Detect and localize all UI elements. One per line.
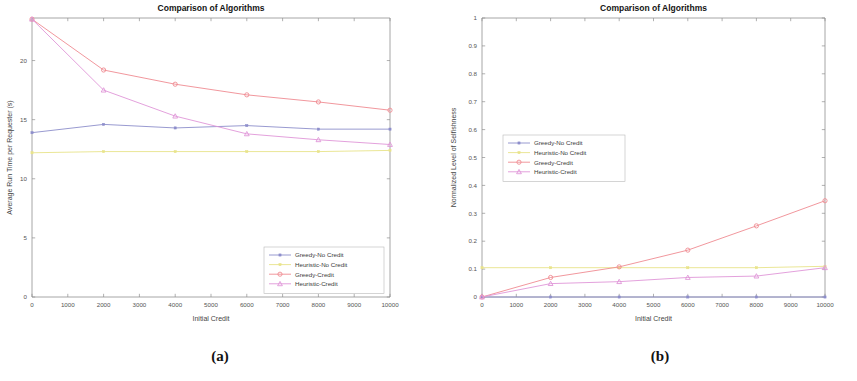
y-tick-label: 0	[474, 293, 478, 300]
series-line	[482, 201, 825, 297]
data-point-marker	[389, 128, 391, 130]
legend-marker	[518, 152, 520, 154]
y-axis-label: Average Run Time per Requester (s)	[6, 100, 14, 214]
figure-container: Comparison of Algorithms0100020003000400…	[0, 0, 857, 381]
data-point-marker	[31, 132, 33, 134]
x-tick-label: 2000	[544, 301, 558, 308]
data-point-marker	[687, 296, 689, 298]
x-tick-label: 5000	[647, 301, 661, 308]
data-point-marker	[103, 150, 105, 152]
x-tick-label: 10000	[816, 301, 834, 308]
legend-entry-label: Heuristic-Credit	[295, 280, 338, 287]
legend-entry-label: Greedy-Credit	[534, 159, 573, 166]
series-line	[482, 266, 825, 267]
y-tick-label: 0.2	[468, 237, 477, 244]
x-tick-label: 4000	[168, 301, 182, 308]
y-tick-label: 10	[20, 175, 27, 182]
series-2	[31, 149, 391, 154]
x-tick-label: 0	[480, 301, 484, 308]
chart-svg-panel-a: Comparison of Algorithms0100020003000400…	[0, 0, 430, 340]
legend-entry-label: Greedy-No Credit	[295, 251, 344, 258]
y-tick-label: 0.5	[468, 154, 477, 161]
chart-panel-a: Comparison of Algorithms0100020003000400…	[0, 0, 430, 340]
y-tick-label: 0.1	[468, 265, 477, 272]
y-tick-label: 0.9	[468, 42, 477, 49]
series-3	[30, 17, 392, 112]
x-tick-label: 9000	[347, 301, 361, 308]
legend-entry-label: Heuristic-Credit	[534, 168, 577, 175]
data-point-marker	[389, 149, 391, 151]
y-tick-label: 0	[24, 293, 28, 300]
y-tick-label: 0.7	[468, 98, 477, 105]
x-tick-label: 1000	[61, 301, 75, 308]
data-point-marker	[618, 296, 620, 298]
data-point-marker	[174, 150, 176, 152]
legend-marker	[279, 254, 281, 256]
x-axis-label: Initial Credit	[635, 315, 672, 322]
x-tick-label: 7000	[276, 301, 290, 308]
data-point-marker	[550, 267, 552, 269]
series-line	[32, 19, 390, 144]
legend-marker	[279, 264, 281, 266]
figure-caption-b: (b)	[600, 348, 720, 365]
data-point-marker	[755, 296, 757, 298]
data-point-marker	[824, 296, 826, 298]
series-line	[32, 19, 390, 110]
chart-title: Comparison of Algorithms	[600, 3, 707, 13]
x-tick-label: 4000	[612, 301, 626, 308]
chart-title: Comparison of Algorithms	[158, 3, 265, 13]
y-tick-label: 0.3	[468, 210, 477, 217]
y-tick-label: 15	[20, 116, 27, 123]
data-point-marker	[550, 296, 552, 298]
y-tick-label: 20	[20, 57, 27, 64]
y-tick-label: 0.6	[468, 126, 477, 133]
x-axis-label: Initial Credit	[193, 315, 230, 322]
y-axis-label: Normalized Level of Selfishness	[450, 107, 457, 207]
data-point-marker	[174, 127, 176, 129]
data-point-marker	[755, 267, 757, 269]
data-point-marker	[246, 150, 248, 152]
x-tick-label: 8000	[750, 301, 764, 308]
chart-legend: Greedy-No CreditHeuristic-No CreditGreed…	[503, 135, 625, 181]
x-tick-label: 0	[30, 301, 34, 308]
chart-panel-b: Comparison of Algorithms0100020003000400…	[430, 0, 857, 340]
series-3	[480, 199, 827, 299]
chart-svg-panel-b: Comparison of Algorithms0100020003000400…	[430, 0, 857, 340]
data-point-marker	[687, 267, 689, 269]
y-tick-label: 0.8	[468, 70, 477, 77]
data-point-marker	[481, 267, 483, 269]
y-tick-label: 5	[24, 234, 28, 241]
data-point-marker	[31, 152, 33, 154]
x-tick-label: 10000	[381, 301, 399, 308]
data-point-marker	[103, 123, 105, 125]
data-point-marker	[246, 124, 248, 126]
figure-caption-a: (a)	[160, 348, 280, 365]
x-tick-label: 8000	[312, 301, 326, 308]
data-point-marker	[317, 150, 319, 152]
legend-entry-label: Heuristic-No Credit	[295, 261, 348, 268]
y-tick-label: 1	[474, 14, 478, 21]
series-line	[32, 124, 390, 132]
x-tick-label: 9000	[784, 301, 798, 308]
legend-entry-label: Greedy-No Credit	[534, 139, 583, 146]
legend-entry-label: Heuristic-No Credit	[534, 149, 587, 156]
x-tick-label: 1000	[509, 301, 523, 308]
legend-entry-label: Greedy-Credit	[295, 271, 334, 278]
x-tick-label: 6000	[681, 301, 695, 308]
series-2	[481, 265, 826, 269]
chart-legend: Greedy-No CreditHeuristic-No CreditGreed…	[264, 247, 384, 293]
x-tick-label: 3000	[578, 301, 592, 308]
y-tick-label: 0.4	[468, 182, 477, 189]
x-tick-label: 6000	[240, 301, 254, 308]
x-tick-label: 3000	[133, 301, 147, 308]
series-line	[32, 150, 390, 152]
x-tick-label: 5000	[204, 301, 218, 308]
data-point-marker	[317, 128, 319, 130]
x-tick-label: 7000	[715, 301, 729, 308]
x-tick-label: 2000	[97, 301, 111, 308]
legend-marker	[518, 142, 520, 144]
